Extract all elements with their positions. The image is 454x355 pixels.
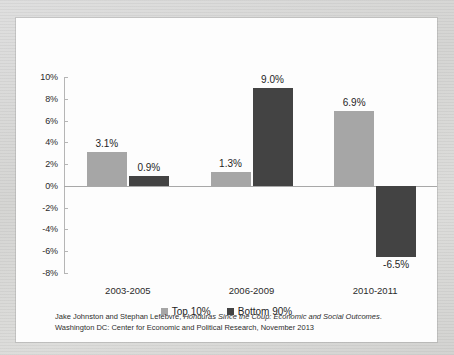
y-tick [64, 229, 68, 230]
category-label-2003-2005: 2003-2005 [105, 285, 150, 296]
y-axis-line [64, 77, 65, 273]
source-caption: Jake Johnston and Stephan Lefebvre, Hond… [55, 312, 425, 334]
y-tick-label: 4% [16, 137, 58, 147]
y-tick-label: 6% [16, 116, 58, 126]
figure-panel: 10%8%6%4%2%0%-2%-4%-6%-8% 3.1%0.9%1.3%9.… [16, 18, 437, 342]
bar-bottom-90--2006-2009 [253, 88, 293, 186]
bar-value-label: 9.0% [261, 74, 284, 85]
y-tick-label: -2% [16, 203, 58, 213]
caption-period: . [380, 312, 382, 321]
y-tick [64, 77, 68, 78]
bar-top-10--2010-2011 [334, 111, 374, 186]
caption-title: Honduras Since the Coup: Economic and So… [183, 312, 379, 321]
y-tick-label: 10% [16, 72, 58, 82]
category-label-2010-2011: 2010-2011 [353, 285, 398, 296]
y-tick-label: 8% [16, 94, 58, 104]
y-tick [64, 121, 68, 122]
y-tick-label: 2% [16, 159, 58, 169]
y-tick [64, 273, 68, 274]
bar-value-label: -6.5% [383, 259, 409, 270]
bar-value-label: 0.9% [137, 162, 160, 173]
bar-value-label: 6.9% [343, 97, 366, 108]
bar-value-label: 1.3% [219, 158, 242, 169]
plot-area: 10%8%6%4%2%0%-2%-4%-6%-8% 3.1%0.9%1.3%9.… [16, 18, 437, 268]
y-tick [64, 251, 68, 252]
bar-value-label: 3.1% [95, 138, 118, 149]
caption-authors: Jake Johnston and Stephan Lefebvre, [55, 312, 183, 321]
y-tick [64, 208, 68, 209]
bar-bottom-90--2003-2005 [129, 176, 169, 186]
bar-top-10--2006-2009 [211, 172, 251, 186]
bar-top-10--2003-2005 [87, 152, 127, 186]
y-tick-label: -6% [16, 246, 58, 256]
y-tick [64, 142, 68, 143]
y-tick-label: 0% [16, 181, 58, 191]
caption-line-2: Washington DC: Center for Economic and P… [55, 323, 425, 334]
y-tick [64, 164, 68, 165]
y-tick-label: -8% [16, 268, 58, 278]
category-label-2006-2009: 2006-2009 [229, 285, 274, 296]
y-tick-label: -4% [16, 224, 58, 234]
y-tick [64, 99, 68, 100]
bar-bottom-90--2010-2011 [376, 186, 416, 257]
caption-line-1: Jake Johnston and Stephan Lefebvre, Hond… [55, 312, 425, 323]
